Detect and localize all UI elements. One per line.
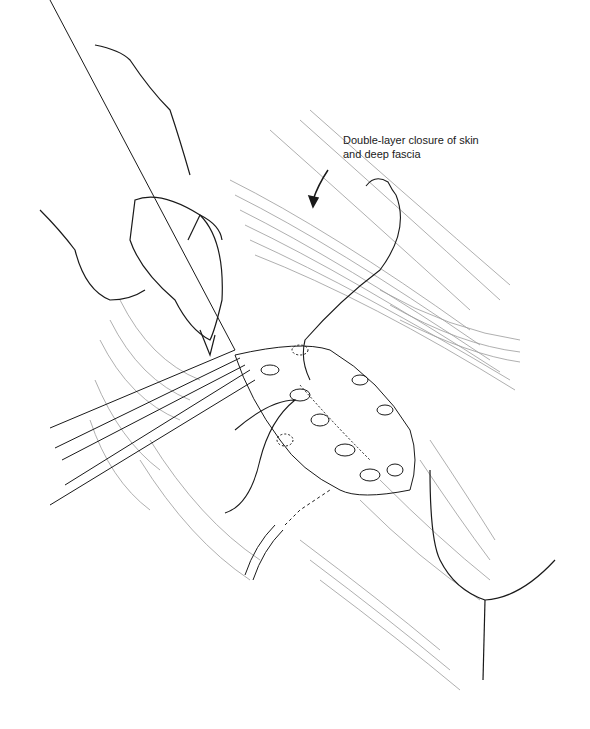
incision-wound [235,345,415,495]
annotation-line-2: and deep fascia [343,147,543,161]
annotation-arrow [309,170,328,207]
skin-contour [430,470,555,680]
figure-annotation: Double-layer closure of skin and deep fa… [343,133,543,161]
forceps [50,0,255,505]
drain-tube [245,490,330,580]
annotation-line-1: Double-layer closure of skin [343,133,543,147]
surgeon-hand [40,45,222,355]
surgical-illustration [0,0,590,729]
suture-needle-with-thread [225,179,400,513]
